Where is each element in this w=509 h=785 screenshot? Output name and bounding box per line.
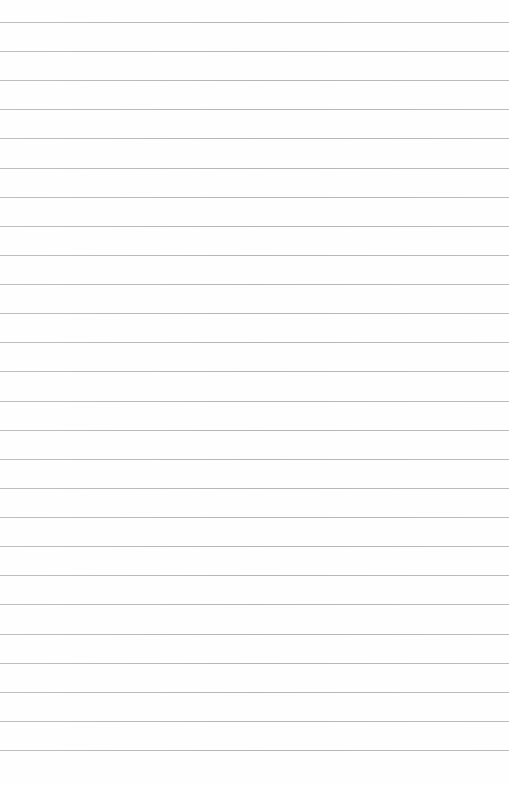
ruled-line bbox=[0, 634, 509, 635]
ruled-line bbox=[0, 109, 509, 110]
ruled-line bbox=[0, 138, 509, 139]
ruled-line bbox=[0, 430, 509, 431]
ruled-line bbox=[0, 51, 509, 52]
ruled-line bbox=[0, 313, 509, 314]
ruled-line bbox=[0, 750, 509, 751]
ruled-line bbox=[0, 168, 509, 169]
ruled-line bbox=[0, 692, 509, 693]
lined-paper-page bbox=[0, 0, 509, 785]
ruled-line bbox=[0, 255, 509, 256]
ruled-line bbox=[0, 342, 509, 343]
ruled-line bbox=[0, 488, 509, 489]
ruled-line bbox=[0, 401, 509, 402]
ruled-line bbox=[0, 517, 509, 518]
ruled-line bbox=[0, 604, 509, 605]
ruled-line bbox=[0, 197, 509, 198]
ruled-line bbox=[0, 226, 509, 227]
ruled-line bbox=[0, 546, 509, 547]
ruled-line bbox=[0, 371, 509, 372]
ruled-line bbox=[0, 721, 509, 722]
ruled-line bbox=[0, 80, 509, 81]
ruled-line bbox=[0, 459, 509, 460]
ruled-line bbox=[0, 284, 509, 285]
ruled-line bbox=[0, 663, 509, 664]
ruled-line bbox=[0, 575, 509, 576]
ruled-line bbox=[0, 22, 509, 23]
